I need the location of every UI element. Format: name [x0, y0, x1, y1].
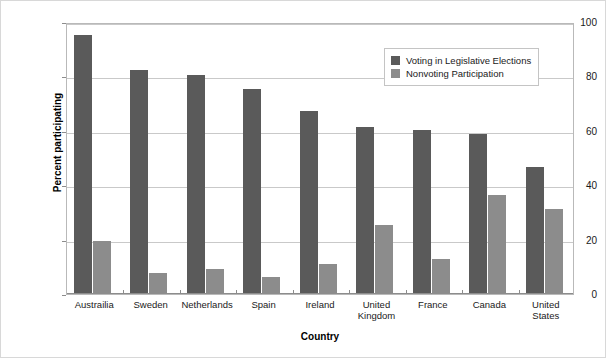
y-axis-tick-mark	[62, 132, 66, 133]
y-axis-tick-mark	[62, 186, 66, 187]
bar-nonvoting	[319, 264, 337, 293]
bar-nonvoting	[206, 269, 224, 293]
y-axis-tick-mark	[62, 77, 66, 78]
y-axis-tick-mark	[62, 295, 66, 296]
bar-voting	[469, 134, 487, 293]
x-axis-tick-label: United States	[518, 299, 574, 321]
y-axis-tick-label: 60	[586, 127, 597, 137]
bar-voting	[300, 111, 318, 293]
x-axis-tick-label: Austrailia	[66, 299, 122, 310]
x-axis-tick-label: France	[405, 299, 461, 310]
bar-group	[293, 23, 349, 293]
x-axis-tick-label: Spain	[235, 299, 291, 310]
bar-nonvoting	[432, 259, 450, 293]
legend-item-label: Nonvoting Participation	[406, 69, 504, 79]
bar-nonvoting	[545, 209, 563, 293]
y-axis-tick-label: 80	[586, 72, 597, 82]
x-axis-tick-label: United Kingdom	[348, 299, 404, 321]
y-axis-tick-label: 100	[580, 18, 597, 28]
legend-swatch-icon	[391, 69, 400, 78]
legend-item: Nonvoting Participation	[391, 67, 531, 80]
bar-nonvoting	[375, 225, 393, 293]
x-axis-tick-label: Ireland	[292, 299, 348, 310]
legend-item-label: Voting in Legislative Elections	[406, 56, 531, 66]
bar-nonvoting	[149, 273, 167, 293]
bar-nonvoting	[262, 277, 280, 293]
legend-item: Voting in Legislative Elections	[391, 54, 531, 67]
x-axis-tick-label: Netherlands	[179, 299, 235, 310]
y-axis-tick-mark	[62, 23, 66, 24]
bar-voting	[74, 35, 92, 293]
bar-nonvoting	[488, 195, 506, 293]
bar-voting	[243, 89, 261, 293]
y-axis-title: Percent participating	[52, 43, 63, 243]
legend-swatch-icon	[391, 56, 400, 65]
bar-voting	[130, 70, 148, 293]
x-axis-tick-label: Sweden	[122, 299, 178, 310]
chart-legend: Voting in Legislative ElectionsNonvoting…	[384, 48, 539, 86]
bar-group	[236, 23, 292, 293]
bar-group	[123, 23, 179, 293]
bar-group	[180, 23, 236, 293]
bar-voting	[356, 127, 374, 293]
y-axis-tick-label: 40	[586, 181, 597, 191]
x-axis-line	[67, 293, 573, 294]
bar-voting	[413, 130, 431, 293]
bar-nonvoting	[93, 241, 111, 293]
bar-voting	[526, 167, 544, 293]
bar-voting	[187, 75, 205, 293]
x-axis-tick-label: Canada	[461, 299, 517, 310]
y-axis-tick-mark	[62, 241, 66, 242]
bar-chart-figure: Percent participating Country Voting in …	[0, 0, 606, 358]
y-axis-tick-label: 0	[591, 290, 597, 300]
x-axis-title: Country	[66, 331, 574, 342]
y-axis-tick-label: 20	[586, 236, 597, 246]
bar-group	[67, 23, 123, 293]
